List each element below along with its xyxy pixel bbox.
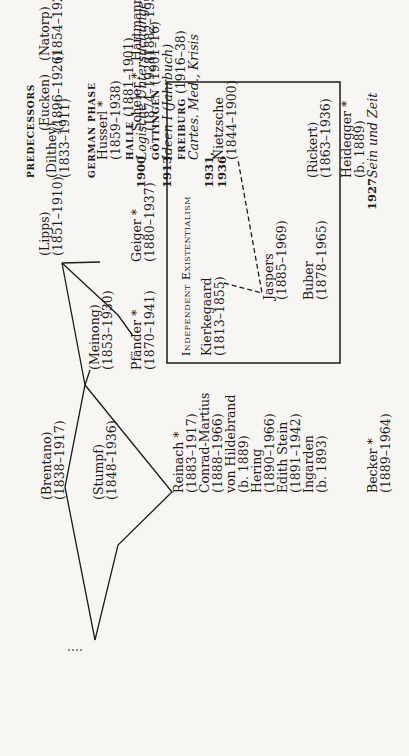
hartmann-dates: (1882–1950) (143, 0, 156, 61)
brentano-dates: (1838–1917) (53, 420, 66, 500)
pfander-dates: (1870–1941) (143, 290, 156, 370)
geiger-dates: (1880–1937) (143, 182, 156, 262)
meinong-dates: (1853–1930) (101, 290, 114, 370)
nietzsche-dates: (1844–1900) (225, 80, 238, 160)
year-1927: 1927 (366, 178, 379, 210)
scheler-dates: (1874–1928) (143, 51, 156, 131)
ingarden-dates: (b. 1893) (315, 435, 328, 493)
kierkegaard-dates: (1813–1855) (213, 276, 226, 356)
existentialism-title: Independent Existentialism (180, 196, 193, 356)
existentialism-title-a: Independent (180, 284, 193, 356)
sein-und-zeit: Sein und Zeit (366, 93, 379, 178)
becker-dates: (1889–1964) (379, 413, 392, 493)
jaspers-dates: (1885–1969) (275, 220, 288, 300)
line-lipps-geiger (62, 262, 100, 263)
buber-dates: (1878–1965) (315, 220, 328, 300)
line-existentialism-dashed (224, 160, 262, 293)
cartes-krisis: Cartes. Med., Krisis (187, 34, 200, 160)
stumpf-dates: (1848–1936) (105, 420, 118, 500)
line-husserl-reinach-meinong (85, 370, 172, 640)
year-1913: 1913 (161, 156, 174, 188)
existentialism-title-b: Existentialism (180, 196, 193, 280)
year-1936: 1936 (216, 156, 229, 188)
lipps-dates: (1851–1910) (51, 176, 64, 256)
phenomenology-genealogy-diagram: PREDECESSORS (Dilthey) (1833–1911) (Bren… (0, 0, 409, 756)
rickert-dates: (1863–1936) (319, 98, 332, 178)
natorp-dates: (1854–1924) (51, 0, 64, 61)
eucken-dates: (1896–1926) (51, 51, 64, 131)
